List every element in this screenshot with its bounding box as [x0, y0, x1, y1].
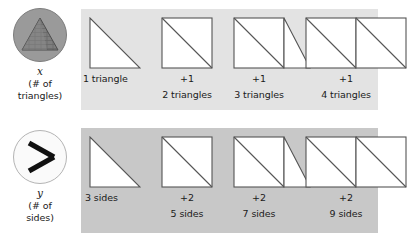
caption-total-y-2: 5 sides [152, 208, 222, 220]
shape-square-2 [161, 17, 213, 69]
panel-sides: 3 sides +2 5 sides +2 7 sides [81, 128, 378, 233]
angle-in-circle-icon [13, 130, 67, 184]
caption-delta-x-2: +1 [161, 73, 213, 85]
panel-triangles: 1 triangle +1 2 triangles +1 3 triangles [81, 9, 378, 110]
caption-total-x-4: 4 triangles [302, 89, 390, 101]
variable-label-x: x [0, 65, 80, 78]
caption-delta-y-3: +2 [233, 192, 285, 204]
caption-total-x-3: 3 triangles [215, 89, 303, 101]
variable-desc-y-line2: sides) [0, 212, 80, 224]
caption-total-y-4: 9 sides [311, 208, 381, 220]
variable-label-y: y [0, 187, 80, 200]
shape-double-square-4 [305, 17, 407, 69]
row-sides: y (# of sides) 3 sides +2 5 sides [0, 124, 386, 241]
variable-desc-x-line2: triangles) [0, 90, 80, 102]
caption-total-x-1: 1 triangle [83, 73, 153, 85]
row-triangles: x (# of triangles) 1 triangle +1 2 trian… [0, 0, 386, 120]
shape-double-square-4-y [305, 136, 407, 188]
shape-square-2-y [161, 136, 213, 188]
caption-delta-y-2: +2 [161, 192, 213, 204]
variable-desc-x-line1: (# of [0, 78, 80, 90]
caption-delta-x-3: +1 [233, 73, 285, 85]
caption-total-y-3: 7 sides [224, 208, 294, 220]
caption-delta-y-4: +2 [315, 192, 377, 204]
caption-delta-x-4: +1 [315, 73, 377, 85]
legend-x: x (# of triangles) [0, 8, 80, 102]
variable-desc-y-line1: (# of [0, 200, 80, 212]
shape-triangle-1 [89, 17, 141, 69]
pyramid-in-circle-icon [13, 8, 67, 62]
legend-y: y (# of sides) [0, 130, 80, 224]
shape-square-tri-3 [233, 17, 311, 69]
caption-total-y-1: 3 sides [85, 192, 155, 204]
shape-triangle-1-y [89, 136, 141, 188]
shape-square-tri-3-y [233, 136, 311, 188]
